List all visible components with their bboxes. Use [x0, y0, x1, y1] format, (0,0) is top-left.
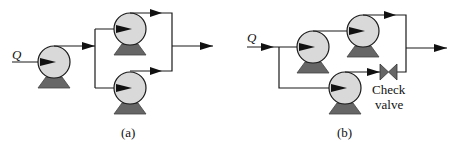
pump-icon — [38, 46, 70, 88]
flow-arrow-icon — [150, 67, 162, 75]
pump-icon — [114, 72, 146, 114]
pump-arrangement-diagram: Q (a) — [0, 0, 454, 144]
flow-arrow-icon — [367, 68, 380, 76]
flow-label-q-b: Q — [247, 30, 257, 45]
flow-arrow-icon — [384, 11, 396, 19]
panel-b: Q Check — [247, 11, 447, 140]
panel-a: Q (a) — [12, 9, 213, 140]
check-valve-label-line1: Check — [372, 82, 406, 97]
caption-b: (b) — [337, 125, 352, 140]
pump-icon — [114, 13, 146, 55]
flow-arrow-icon — [434, 44, 447, 52]
flow-arrow-icon — [82, 42, 95, 50]
flow-arrow-icon — [150, 9, 162, 17]
flow-arrow-icon — [200, 42, 213, 50]
check-valve-label-line2: valve — [375, 97, 403, 112]
pump-icon — [329, 72, 361, 114]
pump-icon — [347, 15, 379, 57]
caption-a: (a) — [121, 125, 135, 140]
flow-label-q-a: Q — [12, 47, 22, 62]
pump-icon — [297, 31, 329, 73]
flow-arrow-icon — [261, 43, 274, 51]
check-valve-icon — [380, 64, 397, 80]
